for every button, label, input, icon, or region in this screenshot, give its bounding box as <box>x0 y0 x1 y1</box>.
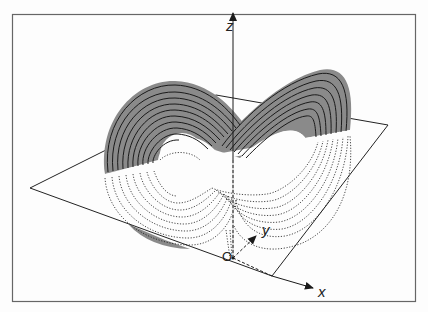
x-axis-label: x <box>318 284 326 299</box>
y-axis-label: y <box>262 222 270 237</box>
lorenz-attractor-diagram <box>0 0 428 312</box>
figure: z y x O <box>0 0 428 312</box>
lower-wing-shade <box>128 224 190 249</box>
x-axis <box>272 276 313 288</box>
z-axis-label: z <box>226 18 234 33</box>
origin-label: O <box>222 250 232 263</box>
